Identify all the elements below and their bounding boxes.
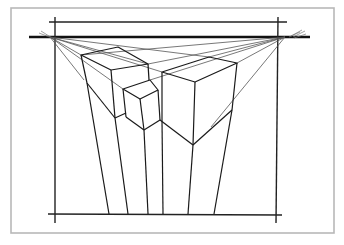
small-cube (123, 80, 160, 130)
perspective-drawing (0, 0, 344, 245)
converging-verticals (87, 83, 232, 214)
right-cube (160, 57, 237, 145)
ground-line (48, 214, 282, 215)
left-vp-rays (50, 37, 209, 89)
outer-frame (11, 8, 334, 233)
